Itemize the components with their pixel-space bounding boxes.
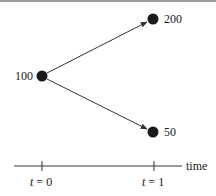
tick-var: t: [30, 175, 33, 189]
binomial-tree-diagram: [0, 0, 216, 196]
time-axis-label: time: [186, 160, 207, 172]
node-down-label: 50: [164, 126, 176, 138]
tick-label-t0: t = 0: [30, 176, 52, 188]
tick-label-t1: t = 1: [142, 176, 164, 188]
node-down: [148, 127, 159, 138]
tick-value: 1: [158, 175, 164, 189]
edge-down-arrow: [47, 79, 147, 129]
node-up-label: 200: [164, 13, 182, 25]
tick-var: t: [142, 175, 145, 189]
node-root: [37, 71, 48, 82]
edge-up-arrow: [47, 22, 147, 73]
node-up: [148, 14, 159, 25]
tick-eq: =: [148, 175, 155, 189]
node-root-label: 100: [15, 70, 33, 82]
tick-eq: =: [36, 175, 43, 189]
tick-value: 0: [46, 175, 52, 189]
